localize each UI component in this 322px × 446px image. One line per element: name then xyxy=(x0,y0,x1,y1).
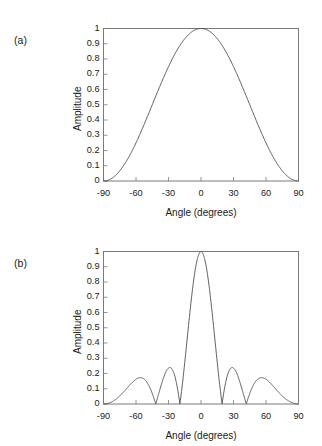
ytick-label: 0.6 xyxy=(66,84,100,94)
ytick-label: 0.8 xyxy=(66,276,100,286)
plot-ticks-a xyxy=(104,29,299,182)
ytick-label: 0.7 xyxy=(66,68,100,78)
ytick-label: 0.2 xyxy=(66,145,100,155)
ytick-label: 0.8 xyxy=(66,53,100,63)
ytick-label: 0.7 xyxy=(66,291,100,301)
ytick-label: 0.1 xyxy=(66,383,100,393)
panel-a-xlabel: Angle (degrees) xyxy=(104,207,299,218)
ytick-label: 1 xyxy=(66,246,100,256)
ytick-label: 1 xyxy=(66,23,100,33)
ytick-label: 0.6 xyxy=(66,307,100,317)
ytick-label: 0.5 xyxy=(66,99,100,109)
ytick-label: 0.3 xyxy=(66,129,100,139)
ytick-label: 0.1 xyxy=(66,160,100,170)
panel-a: (a) Amplitude Angle (degrees) 10.90.80.7… xyxy=(0,0,322,223)
ytick-label: 0.2 xyxy=(66,368,100,378)
plot-ticks-b xyxy=(104,252,299,405)
ytick-label: 0.5 xyxy=(66,322,100,332)
data-curve-a xyxy=(104,29,299,182)
ytick-label: 0.9 xyxy=(66,38,100,48)
ytick-label: 0.4 xyxy=(66,337,100,347)
ytick-label: 0.9 xyxy=(66,261,100,271)
plot-frame-a xyxy=(104,29,299,182)
ytick-label: 0 xyxy=(66,398,100,408)
panel-b: (b) Amplitude Angle (degrees) 10.90.80.7… xyxy=(0,223,322,446)
figure-container: (a) Amplitude Angle (degrees) 10.90.80.7… xyxy=(0,0,322,446)
ytick-label: 0.3 xyxy=(66,352,100,362)
panel-b-xlabel: Angle (degrees) xyxy=(104,430,299,441)
xtick-label: 90 xyxy=(279,188,319,198)
xtick-label: 90 xyxy=(279,411,319,421)
ytick-label: 0.4 xyxy=(66,114,100,124)
ytick-label: 0 xyxy=(66,175,100,185)
plot-frame-b xyxy=(104,252,299,405)
data-curve-b xyxy=(104,252,299,405)
